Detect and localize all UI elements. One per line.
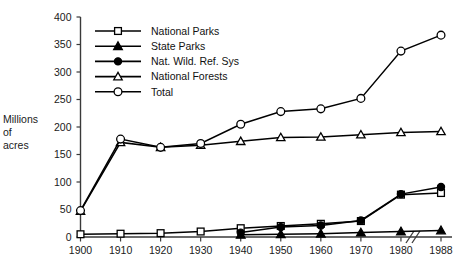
chart-legend: National ParksState ParksNat. Wild. Ref.… (95, 25, 239, 98)
legend-item: Total (95, 86, 173, 98)
series-line (241, 230, 441, 234)
x-tick-label: 1920 (149, 244, 173, 256)
legend-marker-open-square (115, 28, 122, 35)
x-tick-label: 1910 (109, 244, 133, 256)
y-tick-label: 0 (66, 231, 72, 243)
y-tick-label: 350 (54, 38, 72, 50)
series-line (81, 193, 442, 234)
y-tick-label: 250 (54, 93, 72, 105)
legend-item-label: National Parks (151, 25, 219, 37)
series-line (81, 131, 442, 211)
data-point (237, 120, 245, 128)
x-tick-label: 1930 (189, 244, 213, 256)
x-tick-label: 1980 (389, 244, 413, 256)
chart-container: 050100150200250300350400 190019101920193… (0, 0, 461, 264)
x-tick-label: 1950 (269, 244, 293, 256)
data-point (237, 229, 244, 236)
data-point (357, 217, 364, 224)
legend-item-label: State Parks (151, 40, 205, 52)
data-point (77, 231, 84, 238)
y-axis-title-line: Millions (3, 113, 38, 125)
data-point (437, 31, 445, 39)
x-tick-label: 1940 (229, 244, 253, 256)
line-chart: 050100150200250300350400 190019101920193… (0, 0, 461, 264)
data-point (197, 228, 204, 235)
series-nat-wild-ref-sys (237, 183, 444, 236)
legend-item: State Parks (95, 40, 205, 52)
legend-marker-open-circle (114, 88, 122, 96)
data-point (397, 47, 405, 55)
y-axis-title: Millionsofacres (3, 113, 38, 151)
x-tick-label: 1960 (309, 244, 333, 256)
y-tick-label: 50 (60, 203, 72, 215)
data-series-layer (76, 31, 445, 238)
data-point (77, 207, 85, 215)
x-tick-label: 1970 (349, 244, 373, 256)
y-axis-title-line: acres (3, 139, 29, 151)
y-tick-label: 150 (54, 148, 72, 160)
legend-item: Nat. Wild. Ref. Sys (95, 55, 239, 67)
y-tick-label: 300 (54, 66, 72, 78)
x-tick-label: 1900 (69, 244, 93, 256)
data-point (277, 108, 285, 116)
legend-item: National Forests (95, 70, 227, 82)
legend-item-label: National Forests (151, 70, 227, 82)
y-tick-label: 400 (54, 11, 72, 23)
data-point (197, 140, 205, 148)
y-axis-tick-labels: 050100150200250300350400 (54, 11, 72, 243)
legend-item: National Parks (95, 25, 219, 37)
data-point (357, 95, 365, 103)
data-point (157, 230, 164, 237)
data-point (157, 143, 165, 151)
y-axis-title-line: of (3, 126, 12, 138)
data-point (437, 183, 444, 190)
x-axis-tick-labels: 1900191019201930194019501960197019801988 (69, 244, 453, 256)
data-point (117, 230, 124, 237)
data-point (317, 222, 324, 229)
legend-item-label: Nat. Wild. Ref. Sys (151, 55, 239, 67)
data-point (277, 224, 284, 231)
legend-marker-filled-circle (114, 58, 121, 65)
data-point (117, 135, 125, 143)
series-total (77, 31, 445, 214)
legend-item-label: Total (151, 86, 173, 98)
y-tick-label: 100 (54, 176, 72, 188)
data-point (397, 191, 404, 198)
data-point (317, 105, 325, 113)
y-tick-label: 200 (54, 121, 72, 133)
x-tick-label: 1988 (429, 244, 453, 256)
